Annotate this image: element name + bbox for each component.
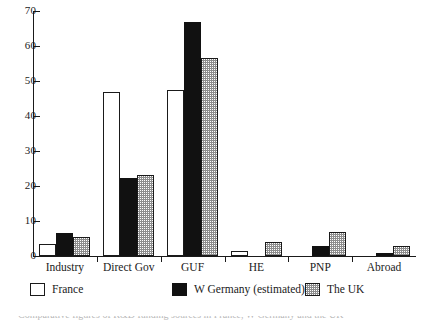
bar-group [231,11,282,256]
x-axis-category-label: HE [225,261,289,274]
bar [39,244,56,256]
bar-group [103,11,154,256]
legend-swatch-icon [172,283,187,296]
legend-item[interactable]: France [30,283,83,296]
legend-swatch-icon [30,283,45,296]
bar [312,246,329,257]
bar [56,233,73,256]
legend-label: France [52,283,83,296]
bar [393,246,410,257]
x-axis-category-label: GUF [161,261,225,274]
legend-swatch-icon [305,283,320,296]
bar [329,232,346,257]
legend-item[interactable]: The UK [305,283,364,296]
bar [73,237,90,256]
plot-area: 010203040506070 IndustryDirect GovGUFHEP… [0,0,425,270]
bar [103,92,120,257]
grouped-bar-chart: 010203040506070 IndustryDirect GovGUFHEP… [0,0,425,323]
bar-group [295,11,346,256]
x-axis-category-label: Direct Gov [97,261,161,274]
bar [167,90,184,256]
bar [376,253,393,257]
chart-legend: FranceW Germany (estimated)The UK [0,283,425,305]
bar [184,22,201,257]
x-axis-category-label: Abroad [352,261,416,274]
bar [265,242,282,256]
bars-layer [33,11,416,256]
caption-text: Comparative figures of R&D funding sourc… [18,316,343,321]
x-axis-category-label: Industry [33,261,97,274]
legend-label: The UK [327,283,364,296]
bar-group [359,11,410,256]
bar [120,178,137,256]
bar [231,251,248,256]
cropped-caption: Comparative figures of R&D funding sourc… [0,316,425,323]
legend-item[interactable]: W Germany (estimated) [172,283,305,296]
x-axis-category-label: PNP [288,261,352,274]
bar-group [39,11,90,256]
legend-label: W Germany (estimated) [194,283,305,296]
bar-group [167,11,218,256]
bar [137,175,154,256]
bar [201,58,218,256]
